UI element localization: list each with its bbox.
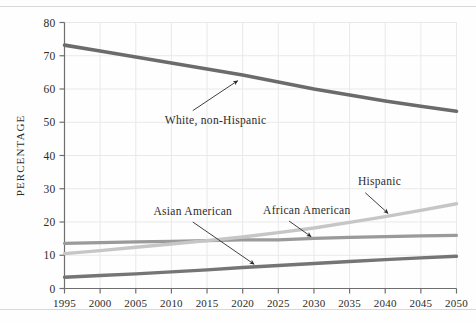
y-tick-label: 20 [44,216,56,228]
x-tick-label: 2040 [374,297,397,309]
x-tick-label: 2035 [338,297,361,309]
x-tick-label: 2045 [409,297,432,309]
x-tick-label: 2000 [89,297,112,309]
annotation-label: Asian American [153,205,232,217]
y-tick-label: 0 [50,283,56,295]
axes [60,23,457,294]
series-line-asian-american [65,256,457,277]
annotation-arrow [365,193,388,214]
x-tick-label: 1995 [53,297,76,309]
y-tick-label: 80 [44,17,56,29]
annotation-arrow [193,81,238,111]
figure-page: 0102030405060708019952000200520102015202… [0,0,476,322]
y-axis-title: PERCENTAGE [14,115,26,197]
series-line-hispanic [65,204,457,254]
x-tick-label: 2010 [160,297,183,309]
y-tick-label: 60 [44,83,56,95]
series-line-white-non-hispanic [65,45,457,111]
axis-titles: PERCENTAGE [14,115,26,197]
annotation-label: White, non-Hispanic [165,114,267,127]
y-tick-label: 50 [44,116,56,128]
y-tick-label: 70 [44,50,56,62]
annotation-arrow [193,222,254,264]
y-tick-label: 40 [44,150,56,162]
population-projection-line-chart: 0102030405060708019952000200520102015202… [0,0,476,322]
annotation-label: African American [263,204,351,216]
y-tick-label: 10 [44,249,56,261]
x-tick-label: 2050 [445,297,468,309]
x-tick-label: 2005 [124,297,147,309]
x-tick-label: 2015 [196,297,219,309]
x-tick-label: 2020 [231,297,254,309]
x-tick-label: 2025 [267,297,290,309]
x-tick-label: 2030 [303,297,326,309]
y-tick-label: 30 [44,183,56,195]
annotation-label: Hispanic [358,175,401,188]
tick-labels: 0102030405060708019952000200520102015202… [44,17,469,309]
data-series [65,45,457,277]
